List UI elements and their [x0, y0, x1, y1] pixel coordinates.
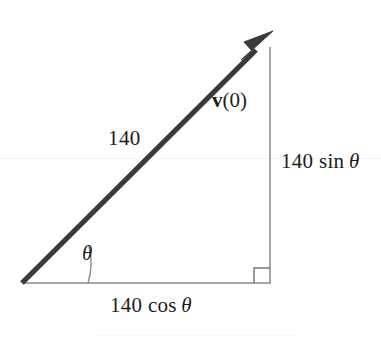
horizontal-component-label: 140 cos θ	[110, 295, 192, 316]
horizontal-component-text: 140 cos	[110, 293, 177, 317]
vector-arrow-shaft	[22, 50, 256, 283]
vertical-component-label: 140 sin θ	[281, 151, 360, 172]
vector-arrowhead	[241, 31, 273, 60]
vector-bold-symbol: v	[212, 88, 223, 112]
vector-triangle-figure: 140 v(0) 140 sin θ 140 cos θ θ	[0, 0, 381, 342]
magnitude-label: 140	[108, 128, 141, 149]
theta-symbol-vertical: θ	[349, 149, 360, 173]
right-angle-marker	[254, 268, 270, 283]
vector-name-label: v(0)	[212, 90, 247, 111]
vertical-component-text: 140 sin	[281, 149, 344, 173]
vector-argument: (0)	[223, 88, 248, 112]
vector-arrow	[22, 31, 273, 283]
theta-symbol-horizontal: θ	[181, 293, 192, 317]
angle-theta-label: θ	[82, 243, 92, 264]
